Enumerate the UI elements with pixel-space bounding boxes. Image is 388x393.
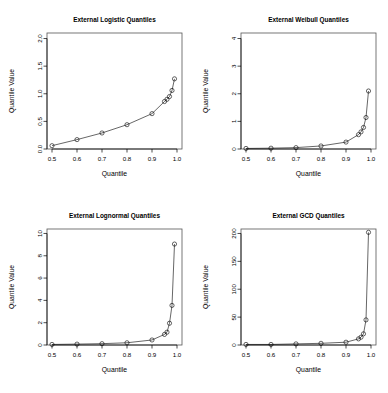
plot-grid: External Logistic Quantiles0.50.60.70.80…: [0, 0, 388, 393]
x-axis-label: Quantile: [296, 170, 322, 178]
y-tick-label: 0: [230, 343, 237, 347]
series-line: [52, 79, 175, 146]
plot-box: [47, 229, 182, 345]
x-tick-label: 1.0: [173, 155, 182, 162]
y-axis: 050100150200: [230, 228, 241, 347]
chart-title: External Weibull Quantiles: [268, 16, 349, 24]
y-tick-label: 3: [230, 64, 237, 68]
chart-title: External GCD Quantiles: [272, 212, 345, 220]
panel-logistic: External Logistic Quantiles0.50.60.70.80…: [0, 0, 194, 196]
chart-title: External Lognormal Quantiles: [69, 212, 160, 220]
y-tick-label: 150: [230, 256, 237, 267]
y-tick-label: 1.5: [36, 61, 43, 70]
y-tick-label: 0: [230, 147, 237, 151]
x-tick-label: 0.5: [48, 155, 57, 162]
x-tick-label: 0.6: [267, 155, 276, 162]
x-tick-label: 0.6: [73, 351, 82, 358]
y-axis: 01234: [230, 36, 241, 150]
x-tick-label: 0.9: [342, 351, 351, 358]
x-axis-label: Quantile: [102, 366, 128, 374]
x-tick-label: 0.9: [148, 351, 157, 358]
x-tick-label: 0.9: [342, 155, 351, 162]
y-tick-label: 0: [36, 343, 43, 347]
y-tick-label: 2: [230, 91, 237, 95]
x-axis: 0.50.60.70.80.91.0: [242, 345, 376, 358]
y-tick-label: 1.0: [36, 89, 43, 98]
x-tick-label: 0.7: [98, 351, 107, 358]
panel-gcd: External GCD Quantiles0.50.60.70.80.91.0…: [194, 196, 388, 392]
y-axis-label: Quantile Value: [8, 69, 16, 113]
plot-box: [47, 33, 182, 149]
x-tick-label: 0.9: [148, 155, 157, 162]
y-axis-label: Quantile Value: [202, 69, 210, 113]
y-tick-label: 2.0: [36, 34, 43, 43]
series-line: [246, 232, 369, 344]
x-tick-label: 0.7: [98, 155, 107, 162]
x-tick-label: 0.8: [123, 155, 132, 162]
y-axis: 0246810: [36, 229, 47, 346]
y-tick-label: 100: [230, 284, 237, 295]
y-tick-label: 200: [230, 228, 237, 239]
y-tick-label: 50: [230, 313, 237, 320]
series-line: [246, 91, 369, 148]
y-axis: 0.00.51.01.52.0: [36, 34, 47, 154]
chart-3: External GCD Quantiles0.50.60.70.80.91.0…: [194, 196, 388, 393]
y-axis-label: Quantile Value: [8, 265, 16, 309]
x-axis: 0.50.60.70.80.91.0: [48, 345, 182, 358]
x-axis-label: Quantile: [102, 170, 128, 178]
chart-1: External Weibull Quantiles0.50.60.70.80.…: [194, 0, 388, 196]
y-tick-label: 10: [36, 229, 43, 236]
y-axis-label: Quantile Value: [202, 265, 210, 309]
x-axis: 0.50.60.70.80.91.0: [242, 149, 376, 162]
x-tick-label: 0.7: [292, 155, 301, 162]
x-tick-label: 0.8: [317, 351, 326, 358]
plot-box: [241, 229, 376, 345]
x-axis: 0.50.60.70.80.91.0: [48, 149, 182, 162]
x-tick-label: 0.5: [242, 351, 251, 358]
y-tick-label: 6: [36, 276, 43, 280]
chart-0: External Logistic Quantiles0.50.60.70.80…: [0, 0, 194, 196]
y-tick-label: 2: [36, 320, 43, 324]
x-tick-label: 0.8: [317, 155, 326, 162]
series-line: [52, 244, 175, 344]
y-tick-label: 8: [36, 253, 43, 257]
x-tick-label: 0.7: [292, 351, 301, 358]
chart-2: External Lognormal Quantiles0.50.60.70.8…: [0, 196, 194, 393]
y-tick-label: 4: [230, 36, 237, 40]
x-tick-label: 0.5: [242, 155, 251, 162]
x-tick-label: 0.6: [73, 155, 82, 162]
x-tick-label: 1.0: [173, 351, 182, 358]
y-tick-label: 1: [230, 119, 237, 123]
x-tick-label: 1.0: [367, 351, 376, 358]
y-tick-label: 4: [36, 298, 43, 302]
x-tick-label: 0.8: [123, 351, 132, 358]
y-tick-label: 0.0: [36, 144, 43, 153]
x-tick-label: 1.0: [367, 155, 376, 162]
x-tick-label: 0.5: [48, 351, 57, 358]
panel-weibull: External Weibull Quantiles0.50.60.70.80.…: [194, 0, 388, 196]
x-axis-label: Quantile: [296, 366, 322, 374]
panel-lognormal: External Lognormal Quantiles0.50.60.70.8…: [0, 196, 194, 392]
x-tick-label: 0.6: [267, 351, 276, 358]
chart-title: External Logistic Quantiles: [73, 16, 156, 24]
y-tick-label: 0.5: [36, 117, 43, 126]
plot-box: [241, 33, 376, 149]
